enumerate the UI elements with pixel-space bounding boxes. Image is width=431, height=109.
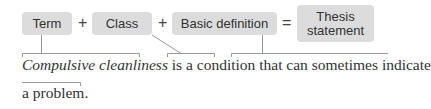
- class-diagonal: [152, 35, 181, 54]
- sentence-line-1: Compulsive cleanliness is a condition th…: [22, 56, 431, 74]
- sentence-line-2: a problem.: [22, 84, 88, 102]
- sentence-term: Compulsive cleanliness: [22, 56, 168, 73]
- sentence-rest: is a condition that can sometimes indica…: [168, 56, 431, 73]
